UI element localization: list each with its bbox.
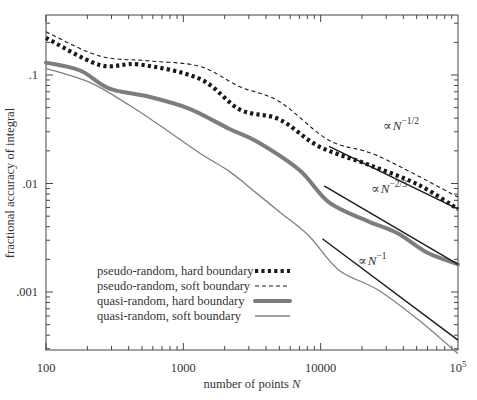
axis-ticks: 100100010000105.1.01.001	[16, 15, 467, 375]
x-tick-label: 100	[37, 361, 56, 375]
legend-label: pseudo-random, hard boundary	[97, 264, 254, 278]
x-axis-label: number of points N	[204, 377, 302, 391]
legend: pseudo-random, hard boundarypseudo-rando…	[97, 264, 290, 323]
slope-annotation-2: ∝N−2/3	[371, 179, 407, 196]
reference-lines	[322, 146, 458, 340]
x-tick-label: 10000	[305, 361, 336, 375]
legend-label: quasi-random, soft boundary	[97, 309, 242, 323]
reference-line-3	[322, 239, 458, 340]
legend-item: quasi-random, hard boundary	[97, 294, 290, 308]
legend-item: pseudo-random, hard boundary	[97, 264, 290, 278]
legend-item: pseudo-random, soft boundary	[97, 279, 290, 293]
y-axis-label: fractional accuracy of integral	[3, 107, 17, 258]
series-quasi-random-hard-boundary	[46, 63, 458, 265]
y-tick-label: .01	[22, 177, 38, 191]
x-tick-label: 1000	[171, 361, 196, 375]
slope-annotations: ∝N−1/2∝N−2/3∝N−1	[358, 116, 419, 268]
slope-annotation-3: ∝N−1	[358, 251, 387, 268]
legend-label: pseudo-random, soft boundary	[97, 279, 251, 293]
slope-annotation-1: ∝N−1/2	[383, 116, 419, 133]
reference-line-2	[324, 186, 458, 264]
legend-item: quasi-random, soft boundary	[97, 309, 290, 323]
legend-label: quasi-random, hard boundary	[97, 294, 245, 308]
x-tick-label: 105	[450, 359, 468, 375]
log-log-chart: 100100010000105.1.01.001 ∝N−1/2∝N−2/3∝N−…	[0, 0, 477, 400]
y-tick-label: .1	[29, 68, 38, 82]
y-tick-label: .001	[16, 285, 38, 299]
